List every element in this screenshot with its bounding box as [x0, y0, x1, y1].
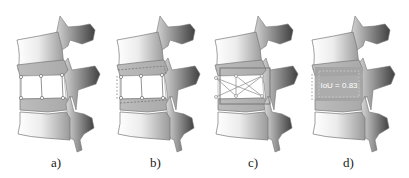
panel-label-d: d) [343, 155, 354, 171]
panel-label-c: c) [248, 155, 258, 171]
iou-region: IoU = 0.83 [312, 67, 363, 101]
spine-figure: IoU = 0.83 [0, 0, 409, 178]
panel-b [117, 16, 200, 152]
panel-c [215, 16, 299, 152]
panel-d: IoU = 0.83 [312, 16, 395, 152]
iou-value: IoU = 0.83 [320, 81, 358, 90]
panel-a [17, 16, 100, 152]
panel-label-b: b) [150, 155, 161, 171]
panel-label-a: a) [51, 155, 61, 171]
